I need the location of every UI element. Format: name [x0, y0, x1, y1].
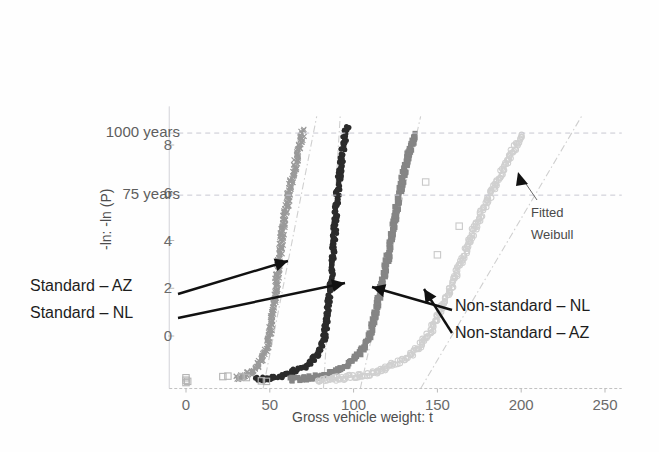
- annotation-fitted-weibull-line2: Weibull: [531, 226, 573, 244]
- x-tick-label-250: 250: [583, 396, 627, 413]
- series-non-standard-az: [315, 132, 524, 384]
- arrow-standard-nl: [178, 279, 345, 318]
- arrow-fitted-weibull: [516, 172, 528, 186]
- y-tick-label-4: 4: [158, 232, 172, 249]
- y-tick-label-0: 0: [158, 327, 172, 344]
- plot-inner-group: [183, 116, 582, 388]
- fitted-weibull-line-fit-non-standard-az: [421, 116, 582, 388]
- x-tick-label-0: 0: [164, 396, 208, 413]
- annotation-standard-nl: Standard – NL: [30, 304, 133, 322]
- annotation-non-standard-az: Non-standard – AZ: [455, 324, 589, 342]
- chart-figure: 0 2 4 6 8 75 years 1000 years 0 50 100 1…: [0, 0, 659, 452]
- y-axis-title: -ln: -ln (P): [98, 189, 114, 250]
- series-outliers: [422, 179, 462, 258]
- x-tick-label-200: 200: [499, 396, 543, 413]
- return-period-label-75-years: 75 years: [60, 185, 180, 202]
- return-period-label-1000-years: 1000 years: [60, 123, 180, 140]
- arrow-standard-az: [178, 259, 288, 294]
- series-non-standard-nl: [288, 131, 418, 384]
- series-standard-az: [234, 127, 307, 382]
- fitted-weibull-line-fit-standard-az: [263, 116, 317, 388]
- annotation-fitted-weibull-line1: Fitted: [531, 204, 564, 222]
- annotation-non-standard-nl: Non-standard – NL: [455, 297, 590, 315]
- arrow-non-standard-nl: [372, 284, 452, 310]
- annotation-standard-az: Standard – AZ: [30, 277, 132, 295]
- x-tick-label-50: 50: [248, 396, 292, 413]
- y-tick-label-2: 2: [158, 279, 172, 296]
- x-axis-title: Gross vehicle weight: t: [292, 409, 433, 425]
